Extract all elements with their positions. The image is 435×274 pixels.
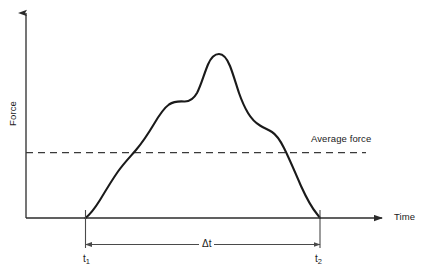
y-axis-label: Force — [7, 90, 18, 138]
t1-tick-label: t1 — [83, 253, 90, 264]
t2-subscript: 2 — [318, 257, 322, 266]
average-force-label: Average force — [311, 133, 371, 144]
delta-t-label: Δt — [199, 238, 214, 249]
force-curve — [86, 54, 321, 218]
t1-subscript: 1 — [86, 257, 90, 266]
x-axis-label: Time — [394, 211, 415, 222]
t2-tick-label: t2 — [315, 253, 322, 264]
force-time-chart: Force Time Average force t1 t2 Δt — [0, 0, 435, 274]
